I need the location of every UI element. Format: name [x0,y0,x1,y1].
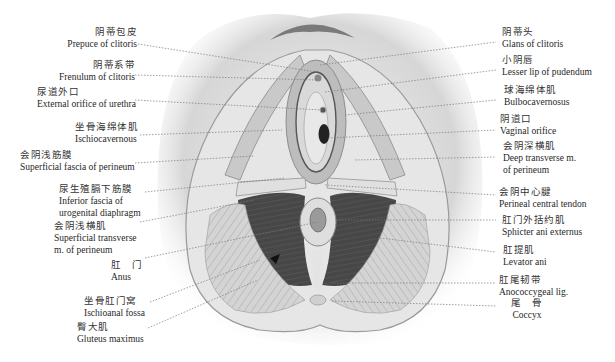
label-ischioanal-fossa: 坐骨肛门窝 Ischioanal fossa [84,295,145,319]
label-external-orifice-urethra: 尿道外口 External orifice of urethra [37,86,136,110]
label-superficial-transverse: 会阴浅横肌 Superficial transverse m. of perin… [54,220,137,256]
label-lesser-lip: 小阴唇 Lesser lip of pudendum [502,54,592,78]
label-levator-ani: 肛提肌 Levator ani [503,244,547,268]
label-glans-of-clitoris: 阴蒂头 Glans of clitoris [502,26,563,50]
anococcygeal-lig [312,250,324,290]
label-vaginal-orifice: 阴道口 Vaginal orifice [500,113,556,137]
label-inferior-fascia-urogenital: 尿生殖膈下筋膜 Inferior fascia of urogenital di… [59,183,141,219]
label-anococcygeal-lig: 肛尾韧带 Anococcygeal lig. [499,274,568,298]
glans-of-clitoris [315,75,322,82]
anatomy-figure: 阴蒂包皮 Prepuce of clitoris 阴蒂系带 Frenulum o… [0,0,615,362]
label-frenulum-of-clitoris: 阴蒂系带 Frenulum of clitoris [59,59,135,83]
label-ischiocavernous: 坐骨海绵体肌 Ischiocavernous [75,121,138,145]
label-deep-transverse: 会阴深横肌 Deep transverse m. of perineum [503,140,576,176]
vaginal-orifice [319,124,330,144]
label-gluteus-maximus: 臀大肌 Gluteus maximus [77,321,144,345]
anus [310,208,326,232]
label-superficial-fascia: 会阴浅筋膜 Superficial fascia of perineum [20,149,135,173]
label-anus: 肛 门 Anus [111,259,143,283]
label-sphincter-ani-externus: 肛门外括约肌 Sphicter ani externus [502,214,582,238]
label-bulbocavernosus: 球海绵体肌 Bulbocavernosus [504,84,569,108]
label-prepuce-of-clitoris: 阴蒂包皮 Prepuce of clitoris [67,26,137,50]
label-perineal-central-tendon: 会阴中心腱 Perineal central tendon [499,186,587,210]
coccyx [310,295,326,305]
label-coccyx: 尾 骨 Coccyx [505,297,549,321]
